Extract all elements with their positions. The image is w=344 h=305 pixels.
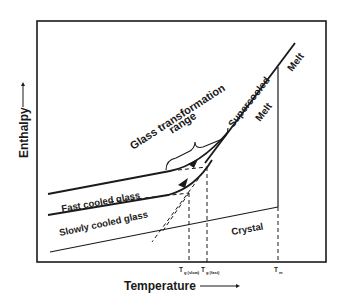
label-melt-lower: Melt — [253, 100, 274, 123]
fast-cooling-arrow-icon — [188, 159, 198, 168]
tick-tg-fast-main: T — [201, 266, 205, 273]
tick-tm-sub: m — [279, 270, 283, 275]
tick-tg-slow-sub: g (slow) — [184, 270, 200, 275]
label-glass-transformation: Glass transformation — [128, 81, 228, 151]
enthalpy-temperature-diagram: Melt Supercooled Melt Glass transformati… — [0, 0, 344, 305]
x-axis-label: Temperature — [124, 279, 196, 293]
tick-tg-fast-sub: g (fast) — [206, 270, 220, 275]
y-axis-arrow-icon — [21, 82, 25, 86]
label-crystal: Crystal — [230, 221, 264, 237]
y-axis-label: Enthalpy — [17, 107, 31, 158]
melt-extrapolation-2 — [162, 193, 189, 232]
label-fast-cooled-glass: Fast cooled glass — [60, 189, 140, 214]
tick-tm-main: T — [274, 266, 278, 273]
tick-tg-slow-main: T — [179, 266, 183, 273]
label-slowly-cooled-glass: Slowly cooled glass — [58, 208, 149, 238]
x-axis-arrow-icon — [236, 284, 240, 288]
transformation-range-brace — [166, 128, 228, 170]
